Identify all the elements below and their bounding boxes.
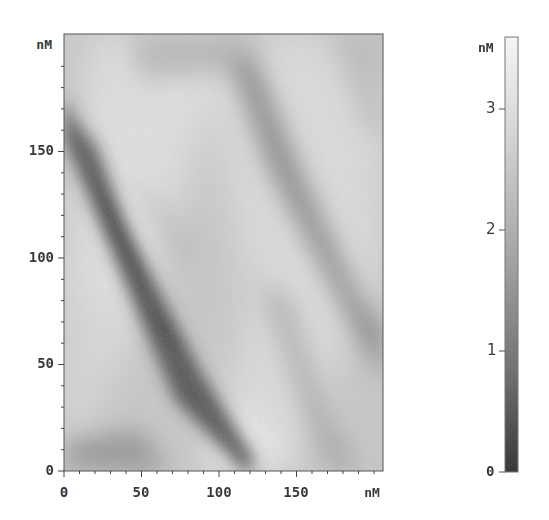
afm-figure <box>0 0 549 520</box>
colorbar-tick-3: 3 <box>486 99 496 117</box>
x-tick-50: 50 <box>121 484 161 500</box>
colorbar-unit: nM <box>478 40 494 55</box>
x-axis <box>64 471 374 477</box>
y-tick-150: 150 <box>10 142 54 158</box>
y-tick-100: 100 <box>10 249 54 265</box>
x-tick-0: 0 <box>44 484 84 500</box>
x-axis-unit: nM <box>352 485 392 500</box>
colorbar-tick-2: 2 <box>486 220 496 238</box>
x-tick-150: 150 <box>276 484 316 500</box>
colorbar-tick-0: 0 <box>486 463 494 479</box>
y-axis-unit: nM <box>8 37 52 52</box>
y-tick-0: 0 <box>10 462 54 478</box>
colorbar <box>499 37 518 472</box>
colorbar-tick-1: 1 <box>487 341 497 359</box>
x-tick-100: 100 <box>199 484 239 500</box>
y-tick-50: 50 <box>10 355 54 371</box>
afm-height-map <box>60 34 383 475</box>
y-axis <box>58 66 64 471</box>
